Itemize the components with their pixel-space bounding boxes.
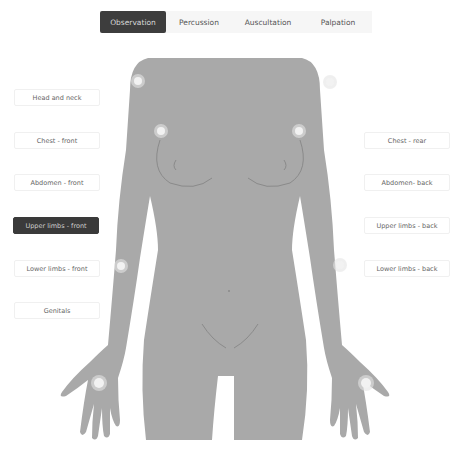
hotspot-left-elbow-core (117, 262, 125, 270)
region-upper-limbs-front[interactable]: Upper limbs - front (13, 217, 99, 234)
hotspot-right-hand-core (361, 378, 371, 388)
region-abdomen-back[interactable]: Abdomen- back (364, 174, 450, 191)
hotspot-right-elbow-core (336, 261, 344, 269)
hotspot-right-shoulder-core (326, 78, 334, 86)
hotspot-left-hand-core (94, 378, 104, 388)
body-silhouette[interactable] (61, 58, 390, 440)
hotspot-right-chest-core (295, 127, 303, 135)
region-abdomen-front[interactable]: Abdomen - front (14, 174, 100, 191)
navel (228, 290, 230, 292)
region-genitals[interactable]: Genitals (14, 302, 100, 319)
hotspot-left-shoulder-core (134, 77, 142, 85)
hotspot-left-chest-core (157, 127, 165, 135)
region-chest-front[interactable]: Chest - front (14, 132, 100, 149)
region-chest-rear[interactable]: Chest - rear (364, 132, 450, 149)
leg-gap (226, 376, 234, 440)
region-upper-limbs-back[interactable]: Upper limbs - back (364, 217, 450, 234)
region-lower-limbs-back[interactable]: Lower limbs - back (364, 260, 450, 277)
region-lower-limbs-front[interactable]: Lower limbs - front (14, 260, 100, 277)
region-head-and-neck[interactable]: Head and neck (14, 89, 100, 106)
